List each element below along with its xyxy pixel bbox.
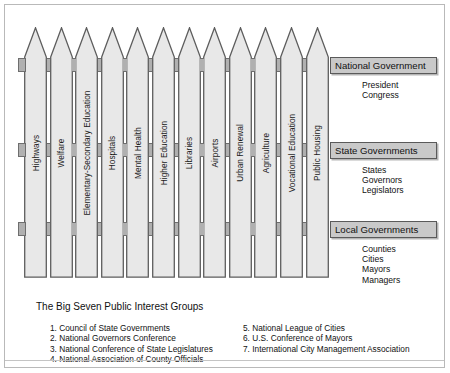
fence-rail-segment [123,222,127,236]
national-government-bar: National Government [330,57,437,74]
fence-rail-stub [18,222,26,236]
fence-rail-segment [226,143,230,157]
big-seven-list-left: 1. Council of State Governments2. Nation… [50,323,213,364]
picket-board [101,27,124,278]
fence-rail-segment [72,58,76,72]
fence-rail-segment [47,143,51,157]
picket: Public Housing [306,27,329,278]
picket: Welfare [50,27,73,278]
fence-rail-segment [226,222,230,236]
fence-rail-segment [47,58,51,72]
picket: Hospitals [101,27,124,278]
big-seven-list-right: 5. National League of Cities6. U.S. Conf… [243,323,410,354]
local-government-bar: Local Governments [330,221,437,238]
fence-rail-segment [47,222,51,236]
government-entity: President [362,80,399,90]
picket-board [24,27,47,278]
fence-rail-segment [251,143,255,157]
fence-rail-segment [200,58,204,72]
big-seven-item: 3. National Conference of State Legislat… [50,344,213,354]
fence-rail-segment [98,143,102,157]
picket: Highways [24,27,47,278]
picket: Mental Health [126,27,149,278]
big-seven-item: 5. National League of Cities [243,323,410,333]
state-government-list: StatesGovernorsLegislators [362,165,404,196]
government-entity: Governors [362,175,404,185]
fence-rail-segment [72,143,76,157]
fence-rail-segment [98,222,102,236]
picket: Agriculture [254,27,277,278]
fence-rail-segment [303,222,307,236]
fence-rail-segment [175,58,179,72]
state-government-bar: State Governments [330,142,437,159]
big-seven-title: The Big Seven Public Interest Groups [36,301,203,312]
fence-rail-segment [200,143,204,157]
fence-rail-segment [149,222,153,236]
fence-rail-segment [277,143,281,157]
fence-rail-segment [72,222,76,236]
government-entity: Cities [362,254,400,264]
fence-rail-stub [18,58,26,72]
fence-rail-segment [251,58,255,72]
big-seven-item: 6. U.S. Conference of Mayors [243,333,410,343]
picket: Airports [203,27,226,278]
picket: Urban Renewal [229,27,252,278]
fence-rail-segment [200,222,204,236]
fence-rail-segment [277,222,281,236]
big-seven-item: 1. Council of State Governments [50,323,213,333]
picket-board [306,27,329,278]
picket-board [178,27,201,278]
fence-rail-segment [123,143,127,157]
fence-rail-segment [123,58,127,72]
big-seven-item: 7. International City Management Associa… [243,344,410,354]
state-government-label: State Governments [335,145,418,156]
picket-board [229,27,252,278]
fence-rail-segment [175,143,179,157]
picket-board [280,27,303,278]
fence-rail-segment [149,58,153,72]
fence-rail-segment [226,58,230,72]
bottom-divider [5,360,444,361]
big-seven-item: 2. National Governors Conference [50,333,213,343]
picket-board [254,27,277,278]
fence-rail-segment [98,58,102,72]
picket: Vocational Education [280,27,303,278]
picket-board [203,27,226,278]
fence-rail-segment [303,58,307,72]
government-entity: Counties [362,244,400,254]
fence-rail-segment [175,222,179,236]
government-entity: Managers [362,275,400,285]
government-entity: Legislators [362,185,404,195]
government-entity: Congress [362,90,399,100]
government-entity: Mayors [362,264,400,274]
local-government-list: CountiesCitiesMayorsManagers [362,244,400,285]
picket-board [75,27,98,278]
fence-rail-segment [277,58,281,72]
picket: Libraries [178,27,201,278]
national-government-list: PresidentCongress [362,80,399,100]
picket: Elementary-Secondary Education [75,27,98,278]
picket: Higher Education [152,27,175,278]
government-entity: States [362,165,404,175]
national-government-label: National Government [335,60,426,71]
picket-board [50,27,73,278]
fence-rail-segment [149,143,153,157]
picket-board [126,27,149,278]
local-government-label: Local Governments [335,224,418,235]
fence-rail-stub [18,143,26,157]
fence-rail-segment [303,143,307,157]
picket-board [152,27,175,278]
diagram-page: HighwaysWelfareElementary-Secondary Educ… [0,0,450,373]
fence-rail-segment [251,222,255,236]
